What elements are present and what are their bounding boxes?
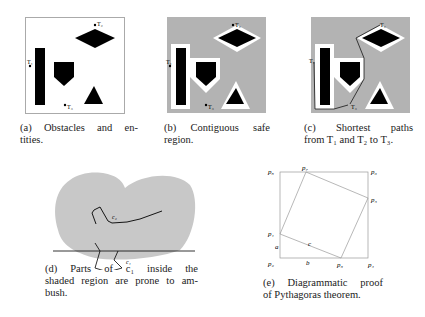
figure-c: T₁ T₂ T₃ (c) Shortest paths from T₁ and … (285, 0, 425, 140)
inner-square (280, 172, 368, 258)
figure-c-diagram: T₁ T₂ T₃ (285, 0, 425, 115)
p5-label: p₅ (370, 196, 378, 204)
p3-label: p₃ (336, 261, 344, 269)
t2-point (94, 24, 96, 26)
t1-label: T₁ (27, 59, 33, 65)
t2-point (232, 24, 234, 26)
rectangle-obstacle (320, 48, 330, 105)
figure-a: T₁ T₂ T₃ (a) Obstacles and en- tities. (0, 0, 140, 140)
t2-label: T₂ (235, 22, 241, 28)
figure-b-diagram: T₁ T₂ T₃ (142, 0, 282, 115)
rectangle-obstacle (35, 48, 45, 105)
p6-label: p₆ (370, 168, 378, 176)
side-b-label: b (306, 259, 310, 267)
t2-label: T₂ (97, 21, 103, 27)
rectangle-obstacle (176, 48, 186, 105)
shaded-blob (55, 172, 195, 259)
figure-a-diagram: T₁ T₂ T₃ (0, 0, 140, 115)
figure-d-diagram: c₂ c₁ (0, 140, 210, 270)
t3-point (205, 104, 207, 106)
caption-e: (e) Diagrammatic proof of Pythagoras the… (263, 277, 383, 301)
side-a-label: a (275, 243, 279, 251)
figure-d: c₂ c₁ (d) Parts of c₁ inside the shaded … (0, 140, 210, 317)
figure-e-diagram: p₈ p₇ p₆ p₅ p₁ p₂ p₃ p₄ a b c (250, 140, 425, 270)
p8-label: p₈ (267, 168, 275, 176)
caption-d: (d) Parts of c₁ inside the shaded region… (45, 263, 198, 299)
t3-label: T₃ (208, 104, 214, 110)
t1-point (29, 65, 31, 67)
t3-label: T₃ (351, 104, 357, 110)
t1-label: T₁ (309, 58, 315, 64)
t1-point (169, 65, 171, 67)
side-c-label: c (308, 240, 312, 248)
t2-label: T₂ (380, 22, 386, 28)
t1-label: T₁ (166, 59, 172, 65)
figure-e: p₈ p₇ p₆ p₅ p₁ p₂ p₃ p₄ a b c (e) Diagra… (250, 140, 425, 317)
p2-label: p₂ (267, 260, 275, 268)
c2-label: c₂ (112, 214, 117, 220)
figure-b: T₁ T₂ T₃ (b) Contiguous safe region. (142, 0, 282, 140)
p1-label: p₁ (267, 230, 274, 238)
p4-label: p₄ (367, 261, 375, 269)
t3-point (64, 104, 66, 106)
t3-label: T₃ (67, 104, 73, 110)
p7-label: p₇ (301, 164, 309, 172)
outer-square (280, 172, 368, 258)
